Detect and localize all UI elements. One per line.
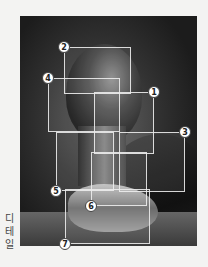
detail-badge-2: 2 [58, 41, 70, 53]
detail-badge-7: 7 [59, 238, 71, 250]
detail-label-char: 테 [3, 225, 15, 238]
detail-badge-4: 4 [42, 72, 54, 84]
detail-badge-1: 1 [148, 86, 160, 98]
detail-badge-6: 6 [85, 200, 97, 212]
detail-label-char: 디 [3, 212, 15, 225]
detail-badge-5: 5 [50, 185, 62, 197]
detail-label-char: 일 [3, 238, 15, 251]
detail-box-7 [65, 189, 150, 244]
detail-badge-3: 3 [179, 126, 191, 138]
detail-label: 디 테 일 [3, 212, 15, 251]
